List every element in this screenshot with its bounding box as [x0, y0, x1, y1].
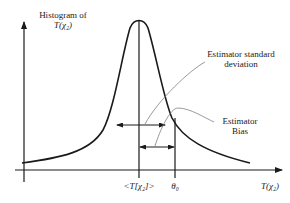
std-dev-leader — [145, 62, 205, 124]
bias-annotation: Estimator Bias — [205, 116, 275, 136]
histogram-curve — [22, 21, 250, 164]
tick-theta-label: θ₀ — [165, 181, 185, 191]
y-axis-label-line1: Histogram of — [18, 10, 108, 20]
x-axis-label: T(χ₂) — [250, 181, 290, 191]
diagram-canvas — [0, 0, 290, 203]
bias-annotation-line2: Bias — [205, 126, 275, 136]
bias-annotation-line1: Estimator — [205, 116, 275, 126]
y-axis-label-line2: T(χ₂) — [18, 20, 108, 30]
tick-mean-label: <T[χ₂]> — [109, 181, 169, 191]
y-axis-label: Histogram of T(χ₂) — [18, 10, 108, 30]
std-dev-annotation-line2: deviation — [196, 59, 286, 69]
estimator-diagram: Histogram of T(χ₂) Estimator standard de… — [0, 0, 290, 203]
std-dev-annotation-line1: Estimator standard — [196, 49, 286, 59]
std-dev-annotation: Estimator standard deviation — [196, 49, 286, 69]
